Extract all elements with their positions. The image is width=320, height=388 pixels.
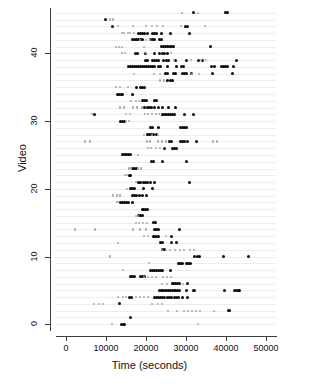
data-point xyxy=(169,32,172,35)
data-point xyxy=(188,32,191,35)
data-point xyxy=(183,310,185,312)
gridline-row xyxy=(56,135,276,136)
gridline-row xyxy=(56,223,276,224)
gridline-row xyxy=(56,101,276,102)
y-tick-label: 30 xyxy=(30,110,39,132)
data-point xyxy=(161,283,163,285)
data-point xyxy=(170,140,173,143)
gridline-row xyxy=(56,324,276,325)
data-point xyxy=(238,289,241,292)
gridline-row xyxy=(56,243,276,244)
data-point xyxy=(156,25,158,27)
data-point xyxy=(175,241,178,244)
data-point xyxy=(161,249,163,251)
gridline-row xyxy=(56,26,276,27)
data-point xyxy=(192,113,195,116)
data-point xyxy=(186,25,189,28)
data-point xyxy=(178,228,181,231)
gridline-row xyxy=(56,209,276,210)
data-point xyxy=(161,140,163,142)
data-point xyxy=(137,154,139,156)
x-tick-label: 30000 xyxy=(173,343,198,353)
data-point xyxy=(159,73,161,75)
data-point xyxy=(127,86,129,88)
data-point xyxy=(115,86,117,88)
data-point xyxy=(112,18,114,20)
data-point xyxy=(153,181,156,184)
gridline-row xyxy=(56,169,276,170)
data-point xyxy=(162,276,164,278)
data-point xyxy=(146,140,148,142)
data-point xyxy=(174,249,176,251)
data-point xyxy=(132,25,134,27)
data-point xyxy=(197,59,200,62)
gridline-row xyxy=(56,20,276,21)
y-tick-label: 0 xyxy=(30,313,39,335)
x-tick xyxy=(266,336,267,341)
data-point xyxy=(74,228,76,230)
data-point xyxy=(188,181,191,184)
data-point xyxy=(157,140,159,142)
gridline-row xyxy=(56,257,276,258)
data-point xyxy=(119,106,121,108)
data-point xyxy=(157,228,160,231)
gridline-row xyxy=(56,121,276,122)
y-tick xyxy=(45,53,50,54)
data-point xyxy=(129,153,132,156)
y-axis-line xyxy=(50,8,51,331)
data-point xyxy=(143,296,145,298)
y-tick xyxy=(45,324,50,325)
data-point xyxy=(181,12,183,14)
data-point xyxy=(189,249,191,251)
data-point xyxy=(131,93,134,96)
data-point xyxy=(211,72,214,75)
data-point xyxy=(212,140,214,142)
data-point xyxy=(157,106,160,109)
data-point xyxy=(180,25,182,27)
data-point xyxy=(151,134,153,136)
gridline-row xyxy=(56,33,276,34)
data-point xyxy=(117,25,119,27)
gridline-row xyxy=(56,182,276,183)
data-point xyxy=(186,140,189,143)
y-tick-label: 10 xyxy=(30,245,39,267)
gridline-row xyxy=(56,311,276,312)
data-point xyxy=(130,167,132,169)
data-point xyxy=(177,296,180,299)
data-point xyxy=(165,140,167,142)
data-point xyxy=(178,289,181,292)
gridline-row xyxy=(56,175,276,176)
gridline-row xyxy=(56,108,276,109)
gridline-row xyxy=(56,94,276,95)
data-point xyxy=(102,303,104,305)
data-point xyxy=(187,310,189,312)
data-point xyxy=(139,39,141,41)
gridline-row xyxy=(56,216,276,217)
x-tick xyxy=(66,336,67,341)
data-point xyxy=(193,249,195,251)
data-point xyxy=(143,276,145,278)
data-point xyxy=(142,222,144,224)
data-point xyxy=(84,140,86,142)
data-point xyxy=(146,208,149,211)
data-point xyxy=(144,113,146,115)
data-point xyxy=(123,323,126,326)
data-point xyxy=(199,310,201,312)
data-point xyxy=(185,59,188,62)
data-point xyxy=(136,52,139,55)
gridline-row xyxy=(56,13,276,14)
data-point xyxy=(247,255,250,258)
gridline-row xyxy=(56,162,276,163)
gridline-row xyxy=(56,155,276,156)
data-point xyxy=(151,303,153,305)
data-point xyxy=(109,18,111,20)
data-point xyxy=(135,222,137,224)
data-point xyxy=(161,241,164,244)
data-point xyxy=(155,113,157,115)
data-point xyxy=(161,106,164,109)
data-point xyxy=(153,106,156,109)
x-tick-label: 0 xyxy=(63,343,68,353)
data-point xyxy=(161,269,164,272)
gridline-row xyxy=(56,229,276,230)
y-tick xyxy=(45,121,50,122)
